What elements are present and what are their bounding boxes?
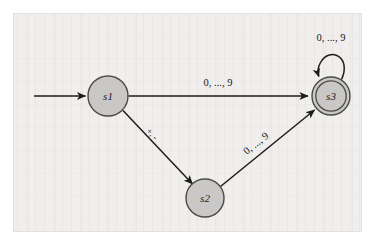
edge-label-s2-s3: 0, ..., 9 bbox=[241, 130, 270, 157]
state-label-s3: s3 bbox=[326, 90, 336, 102]
edge-s1-to-s2: +, - bbox=[123, 111, 193, 185]
state-label-s2: s2 bbox=[200, 192, 210, 204]
edge-label-s1-s2: +, - bbox=[144, 126, 160, 142]
edge-s2-to-s3: 0, ..., 9 bbox=[221, 110, 315, 187]
state-node-s3[interactable]: s3 bbox=[312, 77, 350, 115]
diagram-canvas: 0, ..., 9 +, - 0, ..., 9 0, ..., 9 s1 s2 bbox=[0, 0, 375, 248]
edge-label-s1-s3: 0, ..., 9 bbox=[204, 77, 233, 88]
state-node-s1[interactable]: s1 bbox=[88, 76, 128, 116]
state-node-s2[interactable]: s2 bbox=[186, 179, 224, 217]
state-label-s1: s1 bbox=[103, 90, 113, 102]
state-machine-diagram: 0, ..., 9 +, - 0, ..., 9 0, ..., 9 s1 s2 bbox=[0, 0, 375, 248]
edge-s1-to-s3: 0, ..., 9 bbox=[129, 77, 309, 96]
edge-label-s3-loop: 0, ..., 9 bbox=[317, 32, 346, 43]
edge-s3-self-loop: 0, ..., 9 bbox=[317, 32, 346, 80]
